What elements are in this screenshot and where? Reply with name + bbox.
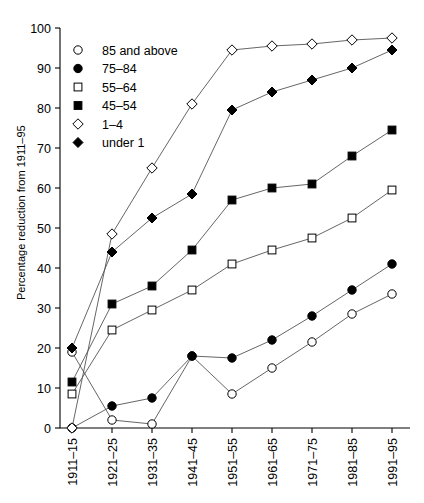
- data-point-open-square: [148, 306, 156, 314]
- data-point-filled-diamond: [267, 87, 277, 97]
- legend-item-label: 55–64: [102, 81, 137, 95]
- x-tick-label: 1981–85: [346, 438, 360, 487]
- data-point-filled-circle: [228, 354, 236, 362]
- data-point-open-square: [268, 246, 276, 254]
- data-point-filled-diamond: [227, 105, 237, 115]
- data-point-open-circle: [148, 420, 156, 428]
- data-point-filled-circle: [74, 64, 82, 72]
- data-point-open-diamond: [107, 229, 117, 239]
- series-lines: [72, 38, 392, 428]
- data-point-open-square: [308, 234, 316, 242]
- data-point-filled-square: [308, 180, 316, 188]
- data-point-open-circle: [228, 390, 236, 398]
- data-point-filled-diamond: [73, 138, 83, 148]
- legend-item-label: 85 and above: [102, 44, 178, 58]
- data-point-filled-square: [74, 102, 82, 110]
- x-tick-label: 1951–55: [226, 438, 240, 487]
- y-tick-label: 50: [37, 222, 51, 236]
- legend-item: 75–84: [74, 62, 137, 76]
- data-point-open-diamond: [267, 41, 277, 51]
- x-tick-label: 1941–45: [186, 438, 200, 487]
- y-axis-title-text: Percentage reduction from 1911–95: [15, 125, 27, 300]
- data-point-open-square: [348, 214, 356, 222]
- legend-item-label: 45–54: [102, 99, 137, 113]
- y-tick-label: 40: [37, 262, 51, 276]
- data-point-open-square: [228, 260, 236, 268]
- data-point-filled-square: [388, 126, 396, 134]
- data-point-filled-circle: [188, 352, 196, 360]
- data-point-filled-circle: [108, 402, 116, 410]
- data-point-filled-diamond: [307, 75, 317, 85]
- data-point-open-square: [108, 326, 116, 334]
- data-point-filled-square: [108, 300, 116, 308]
- data-point-open-diamond: [187, 99, 197, 109]
- data-point-filled-diamond: [387, 45, 397, 55]
- y-tick-label: 20: [37, 342, 51, 356]
- chart-container: Percentage reduction from 1911–95 010203…: [0, 0, 424, 503]
- x-tick-label: 1971–75: [306, 438, 320, 487]
- legend-item: 45–54: [74, 99, 137, 113]
- y-tick-label: 80: [37, 102, 51, 116]
- data-point-open-circle: [348, 310, 356, 318]
- legend-item-label: under 1: [102, 136, 144, 150]
- y-axis-ticks: 0102030405060708090100: [30, 22, 60, 436]
- data-point-filled-square: [228, 196, 236, 204]
- legend-item: 1–4: [73, 118, 123, 132]
- data-point-open-circle: [388, 290, 396, 298]
- x-tick-label: 1921–25: [106, 438, 120, 487]
- x-axis-ticks: 1911–151921–251931–351941–451951–551961–…: [66, 428, 400, 487]
- data-point-open-diamond: [147, 163, 157, 173]
- data-point-open-diamond: [387, 33, 397, 43]
- y-tick-label: 10: [37, 382, 51, 396]
- data-point-filled-square: [188, 246, 196, 254]
- data-point-open-circle: [108, 416, 116, 424]
- x-tick-label: 1911–15: [66, 438, 80, 486]
- data-point-filled-square: [148, 282, 156, 290]
- y-tick-label: 90: [37, 62, 51, 76]
- y-axis-title: Percentage reduction from 1911–95: [15, 125, 27, 300]
- data-point-filled-diamond: [347, 63, 357, 73]
- data-point-filled-circle: [388, 260, 396, 268]
- x-tick-label: 1991–95: [386, 438, 400, 487]
- data-point-open-square: [188, 286, 196, 294]
- legend-item: 85 and above: [74, 44, 178, 58]
- data-point-filled-circle: [148, 394, 156, 402]
- x-tick-label: 1931–35: [146, 438, 160, 487]
- y-tick-label: 60: [37, 182, 51, 196]
- data-point-open-square: [388, 186, 396, 194]
- series-line: [72, 38, 392, 428]
- chart-legend: 85 and above75–8455–6445–541–4under 1: [73, 44, 178, 151]
- data-point-open-circle: [268, 364, 276, 372]
- y-tick-label: 100: [30, 22, 51, 36]
- legend-item: 55–64: [74, 81, 137, 95]
- y-tick-label: 30: [37, 302, 51, 316]
- data-point-open-diamond: [307, 39, 317, 49]
- legend-item-label: 75–84: [102, 62, 137, 76]
- data-point-open-diamond: [67, 423, 77, 433]
- data-point-open-square: [74, 83, 82, 91]
- data-point-filled-circle: [268, 336, 276, 344]
- data-point-filled-square: [268, 184, 276, 192]
- data-point-filled-square: [348, 152, 356, 160]
- series-line: [72, 264, 392, 428]
- y-tick-label: 0: [44, 422, 51, 436]
- data-point-open-circle: [74, 46, 82, 54]
- series-line: [72, 130, 392, 382]
- data-point-open-square: [68, 390, 76, 398]
- data-point-open-diamond: [227, 45, 237, 55]
- data-point-open-diamond: [347, 35, 357, 45]
- data-point-open-diamond: [73, 119, 83, 129]
- data-point-filled-square: [68, 378, 76, 386]
- data-point-open-circle: [308, 338, 316, 346]
- data-point-filled-circle: [308, 312, 316, 320]
- line-chart: Percentage reduction from 1911–95 010203…: [0, 0, 424, 503]
- legend-item: under 1: [73, 136, 144, 150]
- data-point-filled-circle: [348, 286, 356, 294]
- y-tick-label: 70: [37, 142, 51, 156]
- data-point-filled-diamond: [187, 189, 197, 199]
- legend-item-label: 1–4: [102, 118, 123, 132]
- x-tick-label: 1961–65: [266, 438, 280, 487]
